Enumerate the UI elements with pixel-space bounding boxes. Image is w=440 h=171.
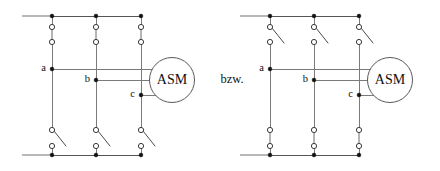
switch-contact-lower <box>311 143 316 148</box>
upper-switch-phase1-right[interactable] <box>267 24 284 44</box>
switch-contact-upper <box>49 127 54 132</box>
terminal-dot-c <box>357 93 361 97</box>
lower-switch-phase2-right[interactable] <box>311 127 316 148</box>
circuit-right: ASM a b c <box>240 14 413 157</box>
terminal-label-a-right: a <box>259 62 264 73</box>
terminal-dot-a <box>268 67 272 71</box>
junction-dot <box>50 14 54 18</box>
terminal-label-a-left: a <box>41 62 46 73</box>
upper-switch-phase1-left[interactable] <box>49 24 54 44</box>
upper-switch-phase2-left[interactable] <box>93 24 98 44</box>
switch-contact-upper <box>138 127 143 132</box>
switch-contact-upper <box>93 127 98 132</box>
junction-dot <box>94 14 98 18</box>
switch-blade-open <box>98 131 110 146</box>
switch-contact-upper <box>356 127 361 132</box>
junction-dot <box>312 153 316 157</box>
lower-switch-phase1-left[interactable] <box>49 127 66 148</box>
switch-contact-upper <box>267 24 272 29</box>
switch-contact-lower <box>267 143 272 148</box>
switch-contact-lower <box>93 39 98 44</box>
switch-contact-lower <box>49 39 54 44</box>
junction-dot <box>139 153 143 157</box>
switch-contact-lower <box>311 39 316 44</box>
upper-switch-phase3-left[interactable] <box>138 24 143 44</box>
lower-switch-phase1-right[interactable] <box>267 127 272 148</box>
switch-contact-lower <box>138 143 143 148</box>
junction-dot <box>268 14 272 18</box>
circuit-diagram: ASM a b c bzw. <box>0 0 440 171</box>
asm-machine-label-left: ASM <box>157 72 188 87</box>
switch-blade-open <box>143 131 155 146</box>
junction-dot <box>139 14 143 18</box>
switch-contact-lower <box>267 39 272 44</box>
switch-contact-upper <box>311 24 316 29</box>
terminal-dot-b <box>94 78 98 82</box>
switch-blade-open <box>361 28 373 43</box>
junction-dot <box>312 14 316 18</box>
switch-contact-upper <box>138 24 143 29</box>
switch-blade-open <box>54 131 66 146</box>
switch-blade-open <box>272 28 284 43</box>
junction-dot <box>50 153 54 157</box>
switch-blade-open <box>316 28 328 43</box>
switch-contact-lower <box>49 143 54 148</box>
asm-machine-label-right: ASM <box>375 72 406 87</box>
terminal-label-c-right: c <box>348 88 353 99</box>
terminal-label-b-right: b <box>303 73 308 84</box>
lower-switch-phase2-left[interactable] <box>93 127 110 148</box>
switch-contact-upper <box>267 127 272 132</box>
junction-dot <box>94 153 98 157</box>
switch-contact-upper <box>93 24 98 29</box>
upper-switch-phase2-right[interactable] <box>311 24 328 44</box>
terminal-dot-c <box>139 93 143 97</box>
lower-switch-phase3-right[interactable] <box>356 127 361 148</box>
junction-dot <box>268 153 272 157</box>
junction-dot <box>357 153 361 157</box>
terminal-dot-a <box>50 67 54 71</box>
junction-dot <box>357 14 361 18</box>
terminal-dot-b <box>312 78 316 82</box>
circuit-left: ASM a b c <box>22 14 195 157</box>
switch-contact-upper <box>49 24 54 29</box>
lower-switch-phase3-left[interactable] <box>138 127 155 148</box>
switch-contact-lower <box>356 39 361 44</box>
terminal-label-c-left: c <box>130 88 135 99</box>
circuit-canvas: ASM a b c bzw. <box>0 0 440 171</box>
switch-contact-upper <box>311 127 316 132</box>
switch-contact-lower <box>356 143 361 148</box>
switch-contact-lower <box>93 143 98 148</box>
switch-contact-lower <box>138 39 143 44</box>
switch-contact-upper <box>356 24 361 29</box>
connector-label: bzw. <box>220 72 243 86</box>
upper-switch-phase3-right[interactable] <box>356 24 373 44</box>
terminal-label-b-left: b <box>85 73 90 84</box>
